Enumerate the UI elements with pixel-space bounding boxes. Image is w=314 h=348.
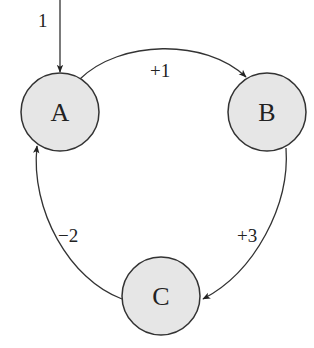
state-diagram: 1 +1 +3 −2 A B C bbox=[0, 0, 314, 348]
edge-c-to-a bbox=[36, 146, 122, 299]
edge-label-b-to-c: +3 bbox=[237, 225, 257, 246]
initial-label: 1 bbox=[38, 10, 48, 31]
node-a: A bbox=[21, 73, 99, 151]
node-c-label: C bbox=[152, 282, 169, 311]
node-b-label: B bbox=[258, 98, 275, 127]
node-a-label: A bbox=[51, 98, 70, 127]
edge-b-to-c bbox=[203, 148, 286, 299]
edge-label-c-to-a: −2 bbox=[58, 225, 78, 246]
edge-label-a-to-b: +1 bbox=[150, 60, 170, 81]
node-b: B bbox=[228, 73, 306, 151]
node-c: C bbox=[122, 257, 200, 335]
